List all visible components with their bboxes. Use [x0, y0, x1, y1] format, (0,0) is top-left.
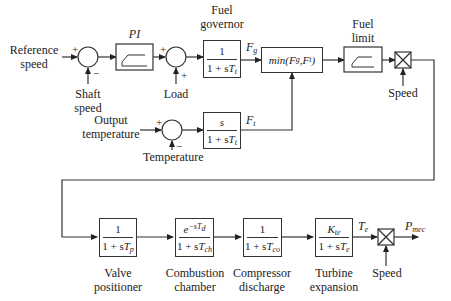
fuel-governor-block: 1 1 + sTt	[203, 40, 241, 78]
sum1-minus-sign: −	[93, 68, 99, 79]
combustion-chamber-block: e−sTd 1 + sTch	[175, 218, 214, 257]
temperature-transfer-block: s 1 + sTt	[203, 112, 241, 149]
reference-speed-label: Reference speed	[4, 43, 64, 71]
speed-bottom-label: Speed	[367, 266, 407, 280]
load-label: Load	[155, 87, 197, 101]
sum2-plus-bottom-sign: +	[181, 70, 187, 81]
sum-junction-temperature	[162, 120, 182, 140]
shaft-speed-label: Shaft speed	[66, 87, 110, 115]
sum2-plus-left-sign: +	[160, 44, 166, 55]
valve-positioner-label: Valve positioner	[88, 266, 148, 294]
fuel-limit-label: Fuel limit	[340, 17, 386, 45]
min-selector-block: min(Fg,Ft)	[261, 47, 323, 73]
sum1-plus-sign: +	[72, 44, 78, 55]
output-temperature-label: Output temperature	[80, 113, 142, 141]
combustion-chamber-label: Combustion chamber	[164, 266, 226, 294]
pmec-signal-label: Pmec	[405, 219, 425, 233]
compressor-discharge-label: Compressor discharge	[230, 266, 294, 294]
sum-junction-load	[166, 47, 186, 67]
turbine-expansion-label: Turbine expansion	[304, 266, 364, 294]
pi-label: PI	[116, 27, 153, 41]
fuel-governor-label: Fuel governor	[196, 3, 248, 31]
sum3-plus-sign: +	[156, 117, 162, 128]
ft-signal-label: Ft	[246, 113, 256, 127]
sum-junction-speed	[78, 47, 98, 67]
fuel-demand-loop	[62, 60, 434, 237]
turbine-expansion-block: Kte 1 + sTe	[315, 218, 353, 257]
temperature-label: Temperature	[143, 150, 203, 164]
te-signal-label: Te	[358, 219, 368, 233]
fg-signal-label: Fg	[246, 40, 257, 54]
valve-positioner-block: 1 1 + sTp	[99, 218, 137, 257]
speed-top-label: Speed	[383, 86, 423, 100]
compressor-discharge-block: 1 1 + sTco	[243, 218, 282, 257]
